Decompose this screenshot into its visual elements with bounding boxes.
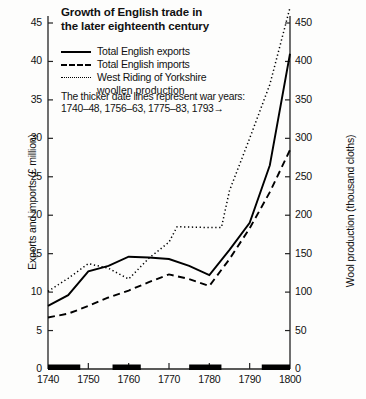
x-tick-label: 1790 (230, 373, 270, 385)
y2-tick-label: 150 (295, 247, 325, 259)
war-year-bar (48, 365, 80, 371)
x-tick-label: 1740 (28, 373, 68, 385)
x-tick-label: 1770 (149, 373, 189, 385)
war-year-bar (113, 365, 141, 371)
y2-tick-label: 450 (295, 16, 325, 28)
chart-figure: Growth of English trade in the later eig… (0, 0, 366, 399)
x-tick-label: 1750 (68, 373, 108, 385)
y-tick-label: 30 (16, 131, 42, 143)
y2-tick-label: 250 (295, 170, 325, 182)
y-tick-label: 35 (16, 93, 42, 105)
y2-tick-label: 350 (295, 93, 325, 105)
y-tick-label: 40 (16, 54, 42, 66)
series-line-dashed (48, 150, 290, 318)
y2-tick-label: 300 (295, 131, 325, 143)
x-tick-label: 1800 (270, 373, 310, 385)
y-tick-label: 5 (16, 324, 42, 336)
y2-tick-label: 50 (295, 324, 325, 336)
data-series-group (48, 8, 290, 318)
y2-tick-label: 200 (295, 208, 325, 220)
y-tick-label: 25 (16, 170, 42, 182)
x-tick-label: 1780 (189, 373, 229, 385)
series-line-dotted (48, 8, 290, 292)
y-tick-label: 20 (16, 208, 42, 220)
war-year-bar (189, 365, 221, 371)
y2-tick-label: 100 (295, 285, 325, 297)
series-line-solid (48, 54, 290, 306)
y-tick-label: 10 (16, 285, 42, 297)
x-tick-label: 1760 (109, 373, 149, 385)
plot-area: 0510152025303540450501001502002503003504… (0, 0, 366, 399)
war-year-bar (262, 365, 290, 371)
tick-marks-group (48, 23, 290, 369)
y-tick-label: 15 (16, 247, 42, 259)
y-tick-label: 45 (16, 16, 42, 28)
y2-tick-label: 400 (295, 54, 325, 66)
axes-group (48, 16, 290, 369)
